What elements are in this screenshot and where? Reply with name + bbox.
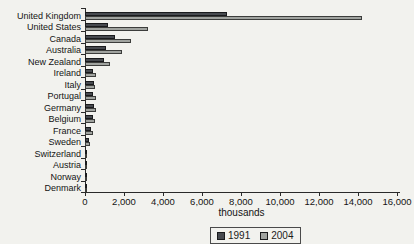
category-label: Sweden (0, 137, 81, 148)
bar-2004-austria (85, 165, 87, 169)
bar-2004-germany (85, 108, 96, 112)
category-label: Norway (0, 172, 81, 183)
bar-2004-australia (85, 50, 122, 54)
category-label: Italy (0, 80, 81, 91)
bar-2004-denmark (85, 188, 87, 192)
y-axis-tick (81, 54, 85, 55)
x-axis-tick-label: 10,000 (258, 196, 302, 207)
category-label: Canada (0, 34, 81, 45)
y-axis-tick (81, 123, 85, 124)
bar-2004-sweden (85, 142, 90, 146)
bar-2004-ireland (85, 73, 96, 77)
y-axis-tick (81, 89, 85, 90)
category-label: Denmark (0, 183, 81, 194)
y-axis-tick (81, 135, 85, 136)
y-axis-tick (81, 43, 85, 44)
bar-2004-france (85, 131, 93, 135)
x-axis-tick-label: 16,000 (375, 196, 414, 207)
x-axis-tick-label: 4,000 (141, 196, 185, 207)
y-axis-tick (81, 181, 85, 182)
legend-label-1991: 1991 (228, 230, 250, 241)
legend-swatch-1991-icon (217, 232, 225, 240)
y-axis-tick (81, 100, 85, 101)
category-label: New Zealand (0, 57, 81, 68)
y-axis-tick (81, 8, 85, 9)
legend-label-2004: 2004 (271, 230, 293, 241)
legend-item-2004: 2004 (260, 230, 293, 241)
bar-2004-new-zealand (85, 62, 110, 66)
bar-2004-italy (85, 85, 95, 89)
category-label: France (0, 126, 81, 137)
category-label: Portugal (0, 91, 81, 102)
legend-swatch-2004-icon (260, 232, 268, 240)
bar-2004-switzerland (85, 154, 87, 158)
category-label: United States (0, 22, 81, 33)
x-axis-tick-label: 12,000 (297, 196, 341, 207)
category-label: Australia (0, 45, 81, 56)
x-axis-tick-label: 6,000 (180, 196, 224, 207)
x-axis-tick-label: 0 (63, 196, 107, 207)
category-label: United Kingdom (0, 11, 81, 22)
y-axis-tick (81, 158, 85, 159)
category-label: Switzerland (0, 149, 81, 160)
y-axis-tick (81, 146, 85, 147)
y-axis-tick (81, 169, 85, 170)
x-axis-tick-label: 2,000 (102, 196, 146, 207)
x-axis-tick-label: 14,000 (336, 196, 380, 207)
category-label: Austria (0, 160, 81, 171)
category-label: Belgium (0, 114, 81, 125)
bar-2004-united-kingdom (85, 16, 362, 20)
legend: 1991 2004 (210, 227, 301, 244)
category-label: Ireland (0, 68, 81, 79)
y-axis-tick (81, 77, 85, 78)
y-axis-tick (81, 31, 85, 32)
y-axis-tick (81, 66, 85, 67)
bar-2004-belgium (85, 119, 95, 123)
x-axis-title: thousands (85, 207, 398, 218)
category-label: Germany (0, 103, 81, 114)
bar-2004-united-states (85, 27, 148, 31)
bar-2004-canada (85, 39, 131, 43)
y-axis-tick (81, 112, 85, 113)
bar-2004-portugal (85, 96, 96, 100)
bar-2004-norway (85, 177, 87, 181)
x-axis-tick-label: 8,000 (219, 196, 263, 207)
legend-item-1991: 1991 (217, 230, 250, 241)
y-axis-tick (81, 20, 85, 21)
